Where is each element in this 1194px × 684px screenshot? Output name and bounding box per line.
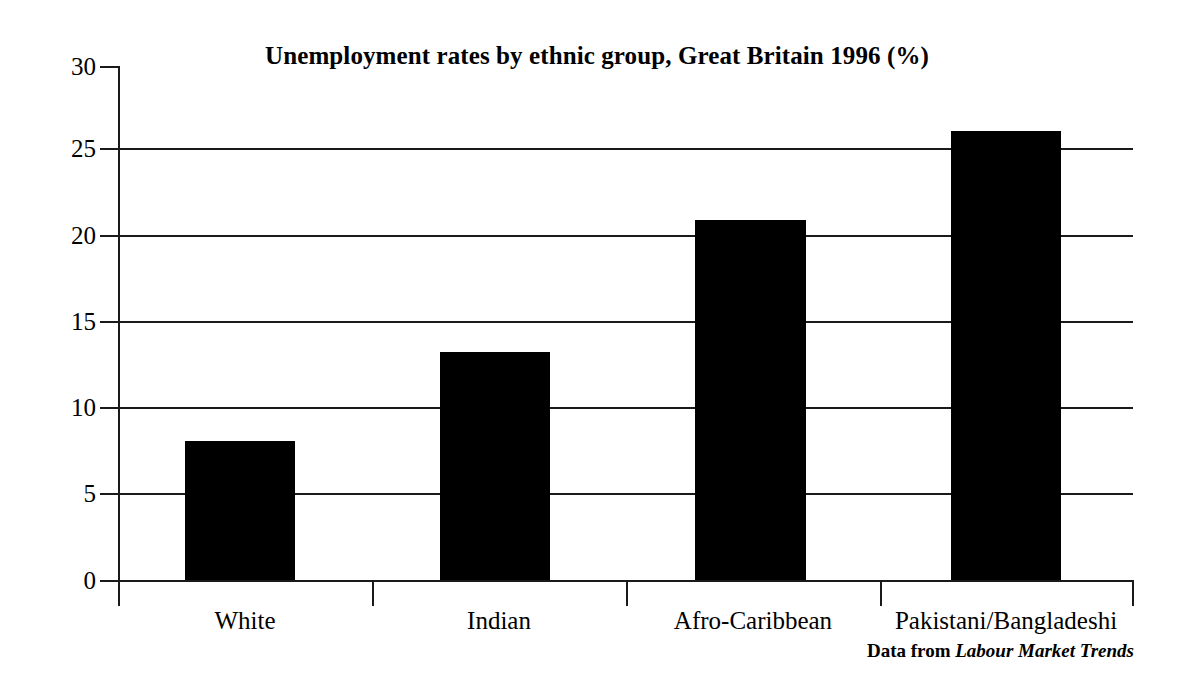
category-separator-0 bbox=[118, 580, 120, 606]
source-note-publication: Labour Market Trends bbox=[955, 640, 1134, 661]
category-separator-4 bbox=[1132, 580, 1134, 606]
category-separator-2 bbox=[626, 580, 628, 606]
y-axis-tick-0 bbox=[100, 580, 118, 582]
y-tick-label-5: 5 bbox=[24, 481, 96, 506]
y-tick-label-30: 30 bbox=[24, 54, 96, 79]
y-axis-tick-30 bbox=[100, 66, 118, 68]
category-separator-3 bbox=[880, 580, 882, 606]
category-label-afro-caribbean: Afro-Caribbean bbox=[626, 606, 880, 636]
y-axis-line bbox=[118, 66, 120, 580]
plot-area bbox=[119, 66, 1133, 580]
y-tick-label-15: 15 bbox=[24, 309, 96, 334]
y-tick-label-20: 20 bbox=[24, 223, 96, 248]
bar-afro-caribbean[interactable] bbox=[695, 220, 806, 580]
y-tick-label-10: 10 bbox=[24, 395, 96, 420]
y-axis-tick-20 bbox=[100, 235, 118, 237]
y-axis-tick-25 bbox=[100, 148, 118, 150]
bar-indian[interactable] bbox=[440, 352, 550, 580]
bar-pakistani-bangladeshi[interactable] bbox=[951, 131, 1061, 580]
category-separator-1 bbox=[372, 580, 374, 606]
source-note-prefix: Data from bbox=[867, 640, 955, 661]
chart-figure: Unemployment rates by ethnic group, Grea… bbox=[0, 0, 1194, 684]
y-axis-tick-5 bbox=[100, 493, 118, 495]
category-label-white: White bbox=[118, 606, 372, 636]
category-label-indian: Indian bbox=[372, 606, 626, 636]
y-tick-label-25: 25 bbox=[24, 136, 96, 161]
y-axis-tick-10 bbox=[100, 407, 118, 409]
source-note: Data from Labour Market Trends bbox=[867, 640, 1134, 662]
category-label-pakistani-bangladeshi: Pakistani/Bangladeshi bbox=[873, 606, 1139, 636]
y-tick-label-0: 0 bbox=[24, 568, 96, 593]
bar-white[interactable] bbox=[185, 441, 295, 580]
y-axis-tick-15 bbox=[100, 321, 118, 323]
